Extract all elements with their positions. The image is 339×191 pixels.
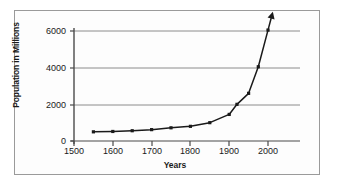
data-point-marker <box>257 65 260 68</box>
data-point-marker <box>111 130 114 133</box>
gridlines <box>74 31 300 105</box>
data-point-marker <box>189 125 192 128</box>
data-point-marker <box>247 92 250 95</box>
population-growth-chart: Population in Millions 6000 4000 2000 0 … <box>0 0 339 191</box>
population-markers <box>92 28 270 133</box>
chart-plot-area <box>0 0 339 191</box>
data-point-marker <box>208 121 211 124</box>
data-point-marker <box>92 130 95 133</box>
data-point-marker <box>266 28 269 31</box>
data-point-marker <box>235 103 238 106</box>
population-line <box>93 18 271 131</box>
data-point-marker <box>131 129 134 132</box>
data-series-line <box>92 12 275 134</box>
trend-arrow-icon <box>268 12 275 20</box>
data-point-marker <box>228 113 231 116</box>
data-point-marker <box>169 126 172 129</box>
axes <box>70 28 300 146</box>
data-point-marker <box>150 128 153 131</box>
